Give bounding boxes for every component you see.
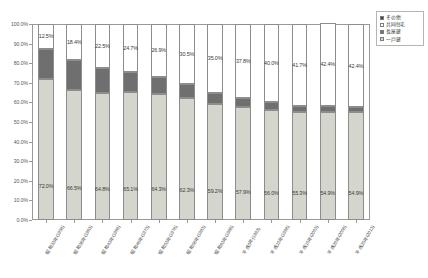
y-axis-tick-mark xyxy=(29,220,32,221)
bar-column[interactable]: 30.5%62.3% xyxy=(179,24,195,220)
bar-segment-row-house[interactable] xyxy=(207,93,223,104)
bar-segment-detached[interactable] xyxy=(264,110,280,220)
x-axis-tick-mark xyxy=(187,220,188,223)
legend-label: 共同住宅 xyxy=(386,22,405,27)
bar-segment-detached[interactable] xyxy=(179,98,195,220)
x-axis-tick-mark xyxy=(74,220,75,223)
bar-value-label-apartment: 30.5% xyxy=(180,51,195,57)
y-axis-tick-label: 100.0% xyxy=(0,21,28,27)
bar-value-label-detached: 72.0% xyxy=(39,183,54,189)
bar-value-label-detached: 65.1% xyxy=(123,186,138,192)
bar-segment-detached[interactable] xyxy=(38,79,54,220)
y-axis-tick-label: 50.0% xyxy=(0,119,28,125)
bar-column[interactable]: 12.5%72.0% xyxy=(38,24,54,220)
y-axis-tick-label: 40.0% xyxy=(0,139,28,145)
bar-column[interactable]: 42.4%54.9% xyxy=(320,24,336,220)
x-axis-tick-label: 昭和58年(1983) xyxy=(185,224,206,255)
x-axis-tick-label: 昭和33年(1958) xyxy=(44,224,65,255)
y-axis-tick-label: 30.0% xyxy=(0,158,28,164)
bar-segment-row-house[interactable] xyxy=(38,49,54,79)
legend-item[interactable]: 一戸建 xyxy=(380,37,421,42)
x-axis-tick-mark xyxy=(300,220,301,223)
x-axis-tick-mark xyxy=(102,220,103,223)
y-axis-tick-label: 0.0% xyxy=(0,217,28,223)
y-axis-tick-label: 20.0% xyxy=(0,178,28,184)
bar-value-label-detached: 64.8% xyxy=(95,186,110,192)
y-axis-tick-label: 90.0% xyxy=(0,41,28,47)
legend-swatch-icon xyxy=(380,37,384,41)
bar-segment-detached[interactable] xyxy=(348,112,364,220)
x-axis-tick-mark xyxy=(131,220,132,223)
x-axis-tick-mark xyxy=(243,220,244,223)
x-axis-tick-label: 平成10年(1998) xyxy=(269,224,290,255)
bar-segment-detached[interactable] xyxy=(320,112,336,220)
bar-segment-detached[interactable] xyxy=(292,112,308,220)
x-axis-tick-label: 昭和43年(1968) xyxy=(100,224,121,255)
legend-label: その他 xyxy=(386,15,400,20)
bar-value-label-apartment: 42.4% xyxy=(349,63,364,69)
bar-column[interactable]: 37.8%57.9% xyxy=(235,24,251,220)
bar-value-label-apartment: 42.4% xyxy=(320,61,335,67)
legend-swatch-icon xyxy=(380,30,384,34)
bar-segment-row-house[interactable] xyxy=(235,98,251,106)
x-axis-tick-label: 平成20年(2008) xyxy=(326,224,347,255)
bar-column[interactable]: 35.0%59.2% xyxy=(207,24,223,220)
bar-column[interactable]: 41.7%55.3% xyxy=(292,24,308,220)
bar-column[interactable]: 42.4%54.9% xyxy=(348,24,364,220)
x-axis-tick-label: 平成25年(2013) xyxy=(354,224,375,255)
y-axis-tick-label: 10.0% xyxy=(0,197,28,203)
bar-value-label-detached: 54.9% xyxy=(320,190,335,196)
legend-item[interactable]: 長屋建 xyxy=(380,29,421,34)
legend-label: 一戸建 xyxy=(386,37,400,42)
bar-segment-row-house[interactable] xyxy=(320,106,336,113)
legend-item[interactable]: 共同住宅 xyxy=(380,22,421,27)
bar-value-label-detached: 55.3% xyxy=(292,190,307,196)
x-axis-tick-mark xyxy=(328,220,329,223)
bar-segment-row-house[interactable] xyxy=(123,72,139,92)
legend-swatch-icon xyxy=(380,23,384,27)
y-axis-tick-label: 60.0% xyxy=(0,99,28,105)
chart-legend: その他共同住宅長屋建一戸建 xyxy=(376,11,424,46)
x-axis-tick-label: 昭和53年(1978) xyxy=(157,224,178,255)
bar-segment-detached[interactable] xyxy=(151,94,167,220)
bar-segment-row-house[interactable] xyxy=(264,102,280,110)
bar-segment-row-house[interactable] xyxy=(66,60,82,90)
bar-value-label-detached: 62.3% xyxy=(180,187,195,193)
bar-segment-detached[interactable] xyxy=(66,90,82,220)
bar-value-label-apartment: 26.9% xyxy=(151,47,166,53)
bars-layer: 12.5%72.0%18.4%66.5%22.5%64.8%24.7%65.1%… xyxy=(32,24,370,220)
bar-column[interactable]: 22.5%64.8% xyxy=(95,24,111,220)
bar-value-label-detached: 54.9% xyxy=(349,190,364,196)
x-axis-tick-label: 昭和48年(1973) xyxy=(129,224,150,255)
bar-value-label-apartment: 22.5% xyxy=(95,43,110,49)
bar-column[interactable]: 40.0%56.0% xyxy=(264,24,280,220)
bar-segment-row-house[interactable] xyxy=(95,68,111,93)
y-axis-tick-label: 80.0% xyxy=(0,60,28,66)
bar-segment-detached[interactable] xyxy=(95,93,111,220)
bar-segment-row-house[interactable] xyxy=(179,84,195,98)
x-axis-tick-label: 平成5年(1993) xyxy=(241,226,261,255)
legend-item[interactable]: その他 xyxy=(380,15,421,20)
bar-segment-row-house[interactable] xyxy=(292,106,308,112)
bar-value-label-apartment: 41.7% xyxy=(292,62,307,68)
bar-column[interactable]: 24.7%65.1% xyxy=(123,24,139,220)
bar-segment-row-house[interactable] xyxy=(151,77,167,94)
legend-swatch-icon xyxy=(380,16,384,20)
x-axis-tick-mark xyxy=(159,220,160,223)
bar-value-label-apartment: 24.7% xyxy=(123,45,138,51)
bar-value-label-apartment: 18.4% xyxy=(67,39,82,45)
x-axis: 昭和33年(1958)昭和38年(1963)昭和43年(1968)昭和48年(1… xyxy=(32,222,370,278)
bar-segment-row-house[interactable] xyxy=(348,107,364,112)
bar-column[interactable]: 18.4%66.5% xyxy=(66,24,82,220)
bar-value-label-detached: 57.9% xyxy=(236,189,251,195)
bar-column[interactable]: 26.9%64.3% xyxy=(151,24,167,220)
bar-segment-detached[interactable] xyxy=(235,107,251,220)
x-axis-tick-label: 昭和63年(1988) xyxy=(213,224,234,255)
legend-label: 長屋建 xyxy=(386,29,400,34)
x-axis-tick-mark xyxy=(356,220,357,223)
bar-segment-detached[interactable] xyxy=(123,92,139,220)
bar-value-label-detached: 64.3% xyxy=(151,186,166,192)
bar-segment-detached[interactable] xyxy=(207,104,223,220)
x-axis-tick-mark xyxy=(46,220,47,223)
x-axis-tick-label: 平成15年(2003) xyxy=(298,224,319,255)
